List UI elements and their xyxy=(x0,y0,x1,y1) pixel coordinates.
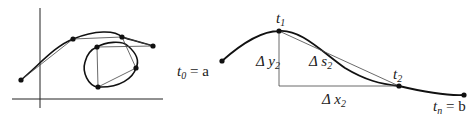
loop-polygon xyxy=(97,46,153,47)
arc-length-diagram: t0 = a t1 t2 tn = b Δ y2 Δ s2 Δ x2 xyxy=(0,0,476,120)
left-figure xyxy=(12,8,163,108)
label-t2: t2 xyxy=(393,66,402,84)
label-tn: tn = b xyxy=(433,98,466,116)
chord-ds xyxy=(279,31,399,86)
label-t1: t1 xyxy=(276,10,285,28)
label-t0: t0 = a xyxy=(177,63,209,81)
label-dy: Δ y2 xyxy=(255,53,280,71)
right-figure: t0 = a t1 t2 tn = b Δ y2 Δ s2 Δ x2 xyxy=(177,10,467,116)
points xyxy=(18,34,155,89)
label-dx: Δ x2 xyxy=(321,91,346,109)
